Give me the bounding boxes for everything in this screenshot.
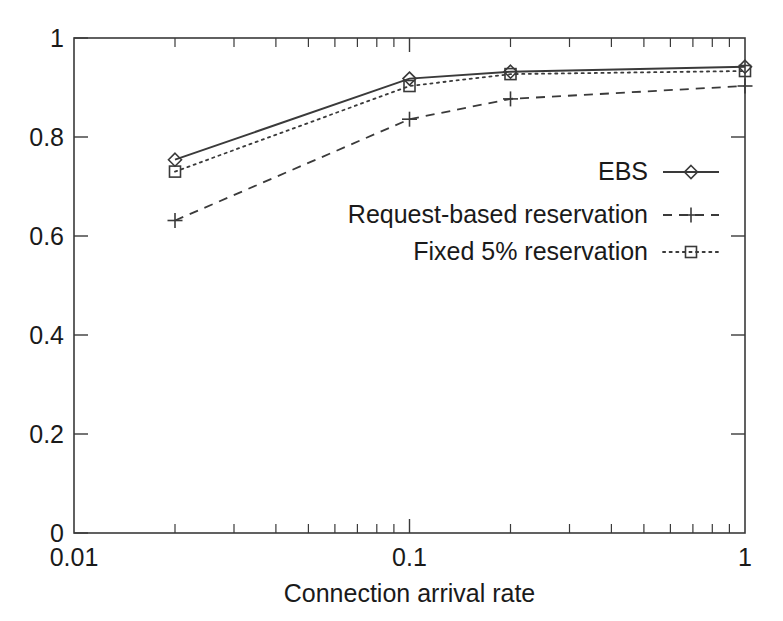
y-tick-label: 0.2 — [29, 420, 64, 448]
x-tick-label: 1 — [738, 543, 752, 571]
legend-label-fixed-5-percent-reservation: Fixed 5% reservation — [413, 237, 648, 265]
chart-background — [0, 0, 783, 621]
x-axis-title: Connection arrival rate — [284, 579, 536, 607]
y-tick-label: 0.6 — [29, 222, 64, 250]
legend-label-ebs: EBS — [598, 157, 648, 185]
chart-canvas: 1 0.8 0.6 0.4 0.2 0 — [0, 0, 783, 621]
chart-figure: 1 0.8 0.6 0.4 0.2 0 — [0, 0, 783, 621]
legend-label-request-based-reservation: Request-based reservation — [348, 200, 648, 228]
y-tick-label: 0.4 — [29, 321, 64, 349]
x-tick-label: 0.01 — [50, 543, 99, 571]
y-tick-label: 1 — [50, 24, 64, 52]
y-tick-label: 0.8 — [29, 123, 64, 151]
x-tick-label: 0.1 — [392, 543, 427, 571]
